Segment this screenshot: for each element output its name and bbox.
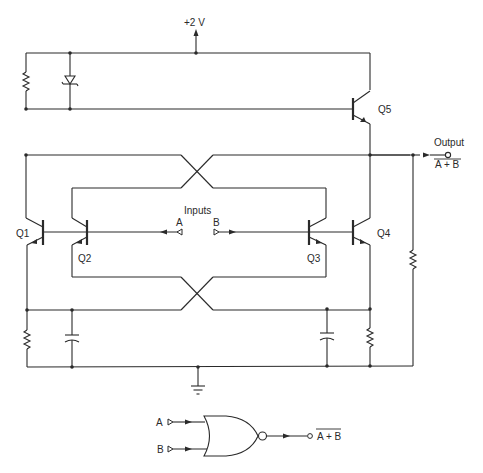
gate-output-expression: A + B [317,431,342,442]
q4-label: Q4 [377,228,391,239]
resistor-emitter-right [367,309,373,366]
transistor-q5: Q5 [353,53,392,155]
crossover-bottom [181,277,213,310]
resistor-output-load [410,155,416,366]
ground-icon [191,367,205,394]
resistor-top-left [23,53,29,109]
inputs-title: Inputs [184,205,211,216]
output-terminal [445,152,450,157]
q1-label: Q1 [16,228,30,239]
gate-input-a-label: A [156,417,163,428]
transistor-q1: Q1 [16,155,43,310]
crossover-top [181,155,213,188]
capacitor-left [65,310,79,367]
diode-icon [62,53,78,109]
supply-terminal: +2 V [184,17,205,53]
q2-label: Q2 [78,253,92,264]
q5-label: Q5 [378,104,392,115]
input-a-label: A [176,217,183,228]
output-expression: A + B [435,159,460,170]
q3-label: Q3 [307,253,321,264]
capacitor-right [320,309,334,367]
resistor-emitter-left [24,310,30,367]
nor-gate-symbol: A B A + B [156,416,342,456]
circuit-diagram: +2 V Q5 Output A + [0,0,483,473]
supply-label: +2 V [184,17,205,28]
gate-input-b-label: B [157,444,164,455]
ground-bus [27,366,413,367]
input-b-label: B [213,217,220,228]
transistor-q4: Q4 [353,155,391,310]
input-b-terminal: B [213,217,220,235]
output-title: Output [434,137,464,148]
input-a-terminal: A [176,217,183,235]
